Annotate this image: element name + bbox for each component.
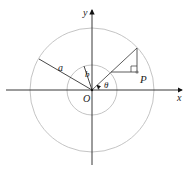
- x-axis-label: x: [176, 92, 182, 103]
- y-axis-label: y: [82, 7, 88, 18]
- radius-a-label: a: [58, 62, 63, 73]
- theta-label: θ: [104, 80, 109, 90]
- point-p: [135, 70, 138, 73]
- ellipse-parametric-diagram: y x O a b θ P: [0, 0, 190, 171]
- origin-point: [91, 89, 93, 91]
- theta-ray: [92, 48, 137, 90]
- point-p-label: P: [139, 73, 147, 85]
- origin-label: O: [83, 93, 90, 104]
- radius-b-label: b: [85, 69, 90, 79]
- theta-arc: [97, 85, 99, 90]
